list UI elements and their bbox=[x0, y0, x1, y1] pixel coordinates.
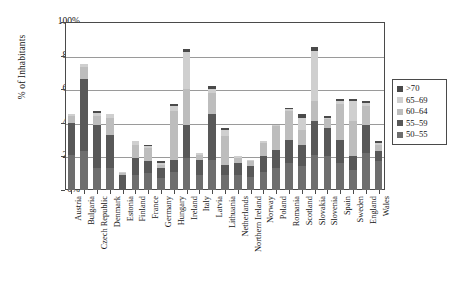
x-tick-label: England bbox=[370, 196, 378, 296]
x-tick-label: Spain bbox=[344, 196, 352, 296]
x-tick-mark bbox=[212, 190, 213, 194]
x-tick-label: Poland bbox=[280, 196, 288, 296]
legend: >7065–6960–6455–5950–55 bbox=[392, 79, 447, 145]
x-tick-mark bbox=[225, 190, 226, 194]
x-tick-mark bbox=[199, 190, 200, 194]
legend-label: >70 bbox=[406, 84, 419, 93]
x-tick-mark bbox=[161, 190, 162, 194]
bar-chart: % of Inhabitants 0%20%40%60%80%100% Aust… bbox=[0, 0, 465, 308]
x-tick-label: Netherlands bbox=[242, 196, 250, 296]
gridline bbox=[66, 90, 384, 91]
x-tick-mark bbox=[187, 190, 188, 194]
x-tick-label: Sweden bbox=[357, 196, 365, 296]
x-tick-label: Northern Ireland bbox=[255, 196, 263, 296]
x-tick-mark bbox=[263, 190, 264, 194]
x-tick-mark bbox=[148, 190, 149, 194]
legend-label: 60–64 bbox=[406, 107, 427, 116]
x-tick-label: Romania bbox=[293, 196, 301, 296]
x-tick-label: Slovakia bbox=[319, 196, 327, 296]
x-tick-label: Lithuania bbox=[229, 196, 237, 296]
legend-swatch-icon bbox=[397, 86, 403, 92]
legend-item[interactable]: 65–69 bbox=[397, 95, 443, 107]
x-tick-mark bbox=[110, 190, 111, 194]
legend-label: 55–59 bbox=[406, 119, 427, 128]
y-tick-mark bbox=[61, 190, 65, 191]
x-tick-label: Ireland bbox=[191, 196, 199, 296]
x-tick-mark bbox=[379, 190, 380, 194]
gridline bbox=[66, 124, 384, 125]
x-tick-label: Germany bbox=[165, 196, 173, 296]
x-tick-mark bbox=[302, 190, 303, 194]
x-tick-mark bbox=[174, 190, 175, 194]
x-tick-label: Wales bbox=[383, 196, 391, 296]
x-tick-label: Norway bbox=[267, 196, 275, 296]
plot-area bbox=[65, 22, 385, 190]
legend-item[interactable]: >70 bbox=[397, 83, 443, 95]
x-tick-label: Hungary bbox=[178, 196, 186, 296]
x-tick-label: Scotland bbox=[306, 196, 314, 296]
x-tick-mark bbox=[135, 190, 136, 194]
legend-item[interactable]: 55–59 bbox=[397, 118, 443, 130]
legend-swatch-icon bbox=[397, 97, 403, 103]
gridline bbox=[66, 157, 384, 158]
legend-swatch-icon bbox=[397, 120, 403, 126]
x-tick-label: Denmark bbox=[114, 196, 122, 296]
legend-swatch-icon bbox=[397, 132, 403, 138]
x-tick-mark bbox=[340, 190, 341, 194]
x-tick-mark bbox=[71, 190, 72, 194]
x-tick-label: Austria bbox=[75, 196, 83, 296]
x-tick-label: Slovenia bbox=[331, 196, 339, 296]
x-tick-mark bbox=[315, 190, 316, 194]
x-tick-mark bbox=[84, 190, 85, 194]
x-tick-label: Bulgaria bbox=[88, 196, 96, 296]
x-tick-mark bbox=[289, 190, 290, 194]
x-tick-mark bbox=[238, 190, 239, 194]
x-tick-label: France bbox=[152, 196, 160, 296]
x-tick-mark bbox=[366, 190, 367, 194]
x-tick-label: Italy bbox=[203, 196, 211, 296]
legend-swatch-icon bbox=[397, 109, 403, 115]
x-tick-label: Czech Republic bbox=[101, 196, 109, 296]
legend-label: 50–55 bbox=[406, 130, 427, 139]
x-tick-label: Finland bbox=[139, 196, 147, 296]
x-tick-label: Latvia bbox=[216, 196, 224, 296]
x-tick-mark bbox=[123, 190, 124, 194]
legend-item[interactable]: 50–55 bbox=[397, 129, 443, 141]
x-tick-mark bbox=[353, 190, 354, 194]
legend-label: 65–69 bbox=[406, 96, 427, 105]
x-tick-mark bbox=[97, 190, 98, 194]
x-tick-label: Estonia bbox=[127, 196, 135, 296]
x-tick-mark bbox=[327, 190, 328, 194]
x-tick-mark bbox=[276, 190, 277, 194]
gridline bbox=[66, 57, 384, 58]
x-tick-mark bbox=[251, 190, 252, 194]
legend-item[interactable]: 60–64 bbox=[397, 106, 443, 118]
